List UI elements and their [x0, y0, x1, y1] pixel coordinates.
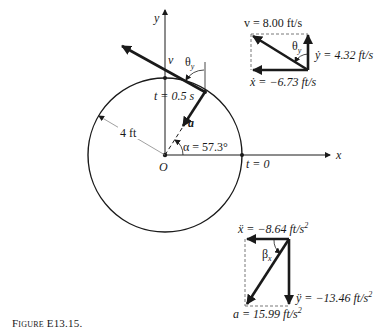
acceleration-label: a — [188, 116, 194, 130]
figure-caption: Figure E13.15. — [12, 317, 82, 329]
ydot-label: ẏ = 4.32 ft/s — [314, 48, 373, 62]
figure-e13-15: y x O 4 ft t = 0 α = 57.3° a v θy t = 0.… — [0, 0, 385, 335]
yddot-label: ÿ = −13.46 ft/s2 — [295, 290, 372, 305]
caption-prefix: Figure — [12, 317, 44, 329]
theta-label: θy — [185, 55, 195, 71]
a-magnitude-label: a = 15.99 ft/s2 — [233, 306, 302, 321]
radius-label: 4 ft — [120, 126, 137, 140]
velocity-magnitude-label: v = 8.00 ft/s — [244, 16, 302, 30]
t0-point-dot — [240, 153, 244, 157]
acceleration-component-diagram: ẍ = −8.64 ft/s2 βx ÿ = −13.46 ft/s2 a = … — [233, 221, 372, 321]
alpha-arc — [175, 140, 183, 155]
y-axis-label: y — [153, 11, 160, 25]
x-axis-label: x — [335, 148, 342, 162]
top-point-dot — [163, 76, 167, 80]
accel-beta-label: βx — [262, 247, 272, 263]
alpha-label: α = 57.3° — [183, 140, 228, 154]
caption-id: E13.15. — [47, 317, 83, 329]
t0-label: t = 0 — [246, 157, 269, 171]
velocity-component-diagram: v = 8.00 ft/s θy ẏ = 4.32 ft/s ẋ = −6.73… — [244, 16, 373, 89]
xdot-label: ẋ = −6.73 ft/s — [249, 75, 317, 89]
velocity-label: v — [168, 53, 174, 67]
xddot-label: ẍ = −8.64 ft/s2 — [237, 221, 308, 236]
velocity-theta-arc — [295, 54, 308, 62]
accel-beta-arc — [274, 240, 280, 253]
t05-point-dot — [203, 90, 207, 94]
t05-label: t = 0.5 s — [154, 89, 194, 103]
origin-label: O — [159, 160, 168, 174]
theta-arc — [186, 70, 204, 80]
velocity-theta-label: θy — [292, 39, 302, 55]
